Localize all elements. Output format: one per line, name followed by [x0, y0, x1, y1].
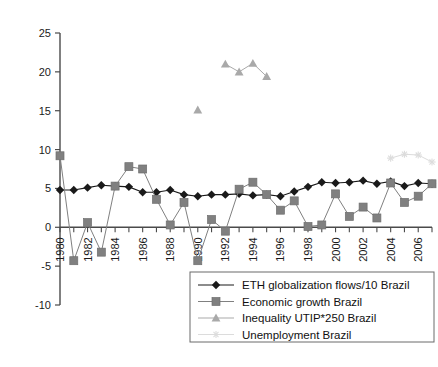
data-point-marker — [345, 178, 353, 186]
data-point-marker — [249, 191, 257, 199]
data-point-marker — [248, 59, 257, 67]
x-axis-tick-label: 1980 — [54, 237, 66, 261]
data-point-marker — [387, 155, 394, 162]
data-point-marker — [180, 198, 188, 206]
data-point-marker — [208, 216, 216, 224]
data-point-marker — [290, 197, 298, 205]
series-line — [391, 154, 432, 162]
data-point-marker — [249, 178, 257, 186]
data-point-marker — [194, 257, 202, 265]
data-point-marker — [212, 298, 220, 306]
data-point-marker — [401, 151, 408, 158]
y-axis-tick-label: -10 — [35, 299, 51, 311]
data-point-marker — [207, 190, 215, 198]
x-axis-tick-label: 1982 — [82, 237, 94, 261]
data-point-marker — [318, 178, 326, 186]
data-point-marker — [221, 60, 230, 68]
y-axis-tick-label: 0 — [45, 221, 51, 233]
x-axis-tick-label: 2002 — [357, 237, 369, 261]
data-point-marker — [56, 186, 64, 194]
data-point-marker — [428, 158, 435, 165]
y-axis-tick-label: -5 — [41, 260, 51, 272]
data-point-marker — [387, 179, 395, 187]
data-point-marker — [97, 248, 105, 256]
legend-label: ETH globalization flows/10 Brazil — [242, 279, 409, 291]
data-point-marker — [428, 180, 436, 188]
data-point-marker — [125, 183, 133, 191]
legend-label: Economic growth Brazil — [242, 296, 362, 308]
data-point-marker — [276, 206, 284, 214]
data-point-marker — [235, 185, 243, 193]
data-point-marker — [415, 151, 422, 158]
line-chart: 2520151050-5-101980198219841986198819901… — [0, 0, 438, 367]
data-point-marker — [359, 176, 367, 184]
x-axis-tick-label: 2000 — [330, 237, 342, 261]
data-point-marker — [373, 214, 381, 222]
data-point-marker — [400, 198, 408, 206]
data-point-marker — [373, 180, 381, 188]
data-point-marker — [331, 179, 339, 187]
data-point-marker — [139, 165, 147, 173]
x-axis-tick-label: 1998 — [302, 237, 314, 261]
y-axis-tick-label: 20 — [39, 66, 51, 78]
x-axis-tick-label: 1996 — [274, 237, 286, 261]
x-axis-tick-label: 2004 — [385, 237, 397, 261]
data-point-marker — [221, 227, 229, 235]
legend-label: Inequality UTIP*250 Brazil — [242, 312, 376, 324]
series-4 — [387, 151, 436, 166]
y-axis-tick-label: 10 — [39, 144, 51, 156]
data-point-marker — [111, 182, 119, 190]
data-point-marker — [194, 192, 202, 200]
chart-legend: ETH globalization flows/10 BrazilEconomi… — [190, 272, 434, 342]
data-point-marker — [70, 257, 78, 265]
chart-container: 2520151050-5-101980198219841986198819901… — [0, 0, 438, 367]
series-line — [225, 63, 266, 76]
data-point-marker — [263, 191, 271, 199]
data-point-marker — [56, 152, 64, 160]
x-axis-tick-label: 1992 — [219, 237, 231, 261]
data-point-marker — [400, 182, 408, 190]
data-point-marker — [221, 190, 229, 198]
x-axis-tick-label: 1994 — [247, 237, 259, 261]
x-axis-tick-label: 1986 — [137, 237, 149, 261]
data-point-marker — [332, 190, 340, 198]
data-point-marker — [276, 192, 284, 200]
x-axis-tick-label: 2006 — [412, 237, 424, 261]
data-point-marker — [166, 221, 174, 229]
data-point-marker — [359, 203, 367, 211]
data-point-marker — [414, 179, 422, 187]
data-point-marker — [138, 188, 146, 196]
legend-label: Unemployment Brazil — [242, 329, 351, 341]
y-axis-tick-label: 15 — [39, 105, 51, 117]
data-point-marker — [345, 212, 353, 220]
data-point-marker — [235, 67, 244, 75]
data-point-marker — [84, 219, 92, 227]
data-point-marker — [166, 186, 174, 194]
y-axis-tick-label: 25 — [39, 27, 51, 39]
data-point-marker — [304, 223, 312, 231]
data-point-marker — [70, 186, 78, 194]
data-point-marker — [193, 106, 202, 114]
y-axis-tick-label: 5 — [45, 182, 51, 194]
data-point-marker — [97, 181, 105, 189]
data-point-marker — [125, 163, 133, 171]
data-point-marker — [290, 187, 298, 195]
x-axis-tick-label: 1984 — [109, 237, 121, 261]
data-point-marker — [180, 190, 188, 198]
data-point-marker — [83, 183, 91, 191]
data-point-marker — [304, 183, 312, 191]
series-3 — [193, 59, 271, 114]
data-point-marker — [318, 221, 326, 229]
data-point-marker — [152, 195, 160, 203]
data-point-marker — [414, 192, 422, 200]
x-axis-tick-label: 1988 — [164, 237, 176, 261]
